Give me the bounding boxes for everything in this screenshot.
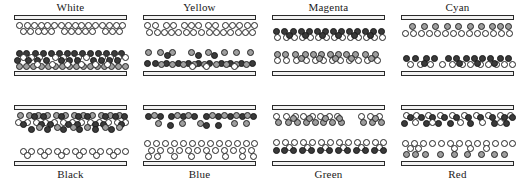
particle-white xyxy=(122,148,129,155)
particle-white xyxy=(144,140,151,147)
particle-white xyxy=(58,152,65,159)
particle-gray xyxy=(70,124,77,131)
particle-white xyxy=(249,29,256,36)
particle-gray xyxy=(290,115,297,122)
particle-gray xyxy=(491,151,498,158)
panel-label-black: Black xyxy=(8,168,133,181)
bottom-electrode-plate xyxy=(143,161,256,166)
particle-gray xyxy=(209,112,216,119)
particle-white xyxy=(176,147,183,154)
particle-gray xyxy=(412,151,419,158)
panel-label-magenta: Magenta xyxy=(266,1,391,14)
particle-gray xyxy=(157,49,164,56)
particle-white xyxy=(20,28,27,35)
particle-white xyxy=(467,61,474,68)
cell-white xyxy=(14,15,127,76)
particle-white xyxy=(75,28,82,35)
particle-white xyxy=(274,57,281,64)
particle-white xyxy=(438,140,445,147)
particle-white xyxy=(225,140,232,147)
particle-gray xyxy=(444,23,451,30)
particle-dark xyxy=(211,52,218,59)
particle-white xyxy=(93,152,100,159)
particle-white xyxy=(402,30,409,37)
particle-white xyxy=(195,22,202,29)
particle-dark xyxy=(401,120,408,127)
particle-gray xyxy=(378,119,385,126)
particle-white xyxy=(482,30,489,37)
particle-gray xyxy=(421,23,428,30)
particle-gray xyxy=(275,119,282,126)
particle-white xyxy=(212,22,219,29)
particle-white xyxy=(116,28,123,35)
particle-gray xyxy=(23,63,30,70)
particle-white xyxy=(235,29,242,36)
particle-gray xyxy=(306,115,313,122)
particle-gray xyxy=(213,61,220,68)
particle-white xyxy=(27,28,34,35)
particle-dark xyxy=(491,60,498,67)
particle-gray xyxy=(247,49,254,56)
particle-dark xyxy=(344,147,351,154)
particle-gray xyxy=(145,49,152,56)
particle-white xyxy=(251,140,258,147)
particle-dark xyxy=(362,147,369,154)
particle-gray xyxy=(179,120,186,127)
particle-white xyxy=(457,119,464,126)
particle-white xyxy=(189,140,196,147)
particle-gray xyxy=(409,23,416,30)
particle-dark xyxy=(308,147,315,154)
particle-white xyxy=(180,140,187,147)
particle-gray xyxy=(122,63,129,70)
panel-yellow: Yellow xyxy=(137,0,262,91)
particle-white xyxy=(251,22,258,29)
bottom-electrode-plate xyxy=(14,161,127,166)
particle-white xyxy=(220,29,227,36)
particle-gray xyxy=(180,61,187,68)
particle-white xyxy=(162,140,169,147)
particle-white xyxy=(203,63,210,70)
particle-gray xyxy=(169,61,176,68)
particle-white xyxy=(168,29,175,36)
panel-label-cyan: Cyan xyxy=(395,1,520,14)
particle-gray xyxy=(102,124,109,131)
particle-white xyxy=(479,119,486,126)
particle-white xyxy=(170,22,177,29)
particle-white xyxy=(188,153,195,160)
panel-green: Green xyxy=(266,91,391,182)
particle-white xyxy=(89,28,96,35)
particle-white xyxy=(458,30,465,37)
cell-yellow xyxy=(143,15,256,76)
particle-dark xyxy=(447,120,454,127)
particle-layer xyxy=(14,20,127,71)
particle-white xyxy=(429,140,436,147)
particle-white xyxy=(509,61,516,68)
particle-dark xyxy=(302,32,309,39)
particle-white xyxy=(242,29,249,36)
particle-white xyxy=(213,29,220,36)
particle-gray xyxy=(437,151,444,158)
particle-white xyxy=(243,140,250,147)
particle-white xyxy=(374,57,381,64)
particle-dark xyxy=(164,52,171,59)
particle-gray xyxy=(316,55,323,62)
particle-white xyxy=(273,139,280,146)
particle-gray xyxy=(221,49,228,56)
particle-white xyxy=(198,29,205,36)
particle-gray xyxy=(478,23,485,30)
particle-white xyxy=(61,28,68,35)
particle-gray xyxy=(478,151,485,158)
particle-white xyxy=(274,34,281,41)
particle-dark xyxy=(273,147,280,154)
particle-white xyxy=(153,140,160,147)
particle-dark xyxy=(435,120,442,127)
particle-gray xyxy=(489,23,496,30)
panel-label-green: Green xyxy=(266,168,391,181)
particle-white xyxy=(407,61,414,68)
particle-white xyxy=(198,140,205,147)
particle-dark xyxy=(299,147,306,154)
particle-layer xyxy=(143,110,256,161)
particle-gray xyxy=(185,112,192,119)
particle-white xyxy=(497,119,504,126)
particle-white xyxy=(109,28,116,35)
